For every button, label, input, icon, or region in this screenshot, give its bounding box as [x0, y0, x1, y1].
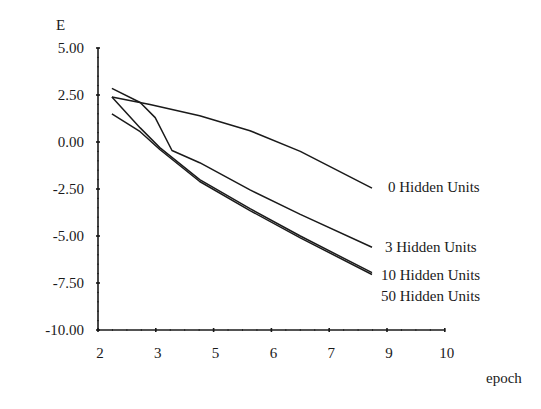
x-tick-label: 6 [270, 345, 278, 361]
x-tick-label: 7 [327, 345, 335, 361]
y-tick-label: -10.00 [45, 322, 84, 338]
series-line-0-hidden-units [112, 97, 372, 188]
y-tick-label: -5.00 [53, 228, 84, 244]
y-tick-label: -7.50 [53, 275, 84, 291]
x-tick-label: 2 [96, 345, 104, 361]
line-chart: E epoch 5.002.500.00-2.50-5.00-7.50-10.0… [0, 0, 541, 409]
x-tick-label: 5 [212, 345, 220, 361]
series-labels: 0 Hidden Units3 Hidden Units10 Hidden Un… [381, 179, 480, 304]
series-label: 0 Hidden Units [388, 179, 480, 195]
series-lines [112, 88, 372, 274]
x-tick-label: 9 [385, 345, 393, 361]
y-tick-label: 5.00 [58, 40, 84, 56]
x-tick-label: 3 [154, 345, 162, 361]
series-label: 50 Hidden Units [381, 288, 480, 304]
y-tick-label: 2.50 [58, 87, 84, 103]
x-axis-ticks: 23567910 [96, 328, 454, 361]
y-axis-title: E [56, 17, 65, 33]
x-axis-title: epoch [486, 370, 522, 386]
y-tick-label: 0.00 [58, 134, 84, 150]
y-tick-label: -2.50 [53, 181, 84, 197]
series-label: 3 Hidden Units [385, 239, 477, 255]
x-tick-label: 10 [439, 345, 454, 361]
series-label: 10 Hidden Units [381, 267, 480, 283]
y-axis-ticks: 5.002.500.00-2.50-5.00-7.50-10.00 [45, 40, 100, 338]
